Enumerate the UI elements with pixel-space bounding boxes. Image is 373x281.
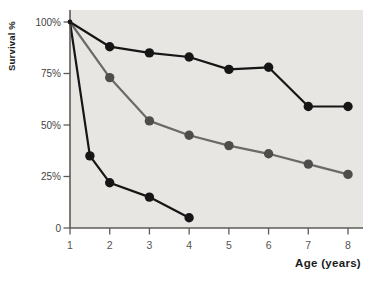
x-tick-label-2: 2	[107, 239, 113, 251]
data-point-survival-curve-high-5	[224, 65, 233, 74]
data-point-survival-curve-middle-7	[304, 159, 313, 168]
y-tick-label-75: 75%	[41, 68, 61, 79]
x-tick-label-3: 3	[147, 239, 153, 251]
x-tick-label-4: 4	[186, 239, 192, 251]
data-point-survival-curve-low-1.5	[85, 151, 94, 160]
survival-chart: 100%75%50%25%012345678 Survival % Age (y…	[0, 0, 373, 281]
y-tick-label-50: 50%	[41, 120, 61, 131]
data-point-survival-curve-low-3	[145, 192, 154, 201]
data-point-survival-curve-high-2	[105, 42, 114, 51]
x-tick-label-7: 7	[305, 239, 311, 251]
data-point-survival-curve-high-4	[184, 52, 193, 61]
data-point-survival-curve-middle-8	[343, 170, 352, 179]
data-point-survival-curve-high-8	[343, 102, 352, 111]
x-tick-label-5: 5	[226, 239, 232, 251]
data-point-survival-curve-high-3	[145, 48, 154, 57]
survival-curves-figure: 100%75%50%25%012345678 Survival % Age (y…	[0, 0, 373, 281]
x-tick-label-8: 8	[345, 239, 351, 251]
y-tick-label-25: 25%	[41, 171, 61, 182]
x-tick-label-1: 1	[67, 239, 73, 251]
data-point-survival-curve-middle-2	[105, 73, 114, 82]
data-point-survival-curve-middle-6	[264, 149, 273, 158]
data-point-survival-curve-middle-3	[145, 116, 154, 125]
y-tick-label-0: 0	[55, 223, 61, 234]
x-axis-title: Age (years)	[295, 257, 361, 269]
y-axis-title: Survival %	[6, 21, 17, 71]
data-point-survival-curve-low-4	[184, 213, 193, 222]
data-point-survival-curve-middle-4	[184, 131, 193, 140]
plot-area	[70, 10, 363, 228]
data-point-survival-curve-high-7	[304, 102, 313, 111]
x-tick-label-6: 6	[266, 239, 272, 251]
data-point-survival-curve-high-6	[264, 63, 273, 72]
origin-join-dot	[68, 20, 73, 25]
data-point-survival-curve-low-2	[105, 178, 114, 187]
y-tick-label-100: 100%	[35, 17, 61, 28]
data-point-survival-curve-middle-5	[224, 141, 233, 150]
